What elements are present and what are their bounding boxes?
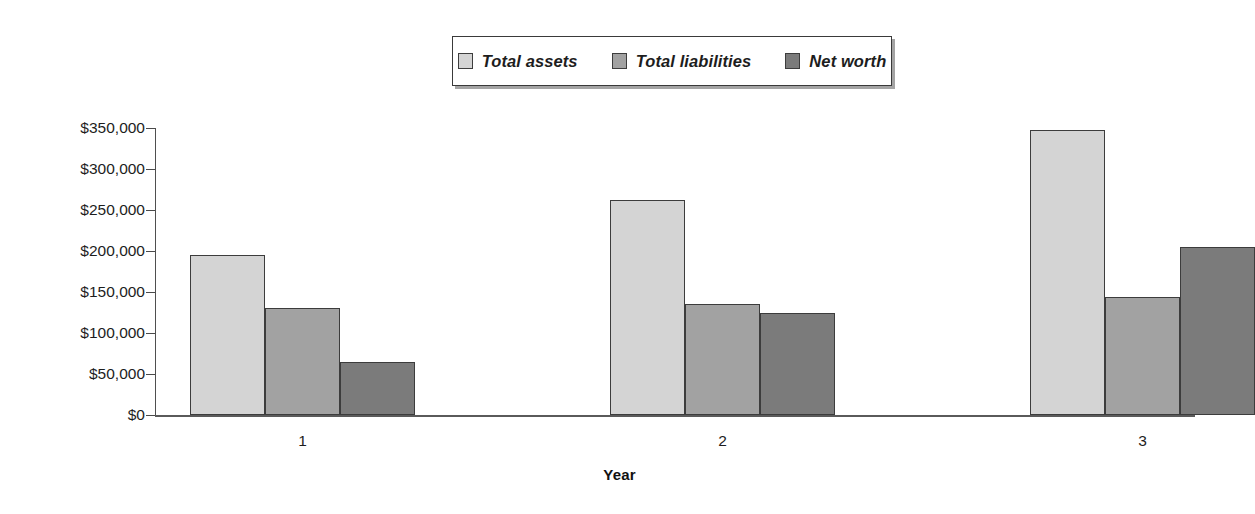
- x-axis-category-label: 3: [1138, 432, 1147, 450]
- y-axis-tick-mark: [146, 210, 155, 211]
- y-axis-tick-mark: [146, 251, 155, 252]
- bar: [1030, 130, 1105, 415]
- y-axis-tick-mark: [146, 374, 155, 375]
- y-axis-tick-label: $350,000: [80, 119, 145, 137]
- bar: [265, 308, 340, 415]
- y-axis-tick-label: $50,000: [89, 365, 145, 383]
- x-axis-title: Year: [0, 466, 1239, 483]
- y-axis-tick-mark: [146, 292, 155, 293]
- x-axis-category-label: 2: [718, 432, 727, 450]
- y-axis-tick-mark: [146, 415, 155, 416]
- y-axis-tick-mark: [146, 333, 155, 334]
- bar: [610, 200, 685, 415]
- bar: [685, 304, 760, 415]
- bar: [1180, 247, 1255, 415]
- x-axis-line: [155, 415, 1195, 417]
- bar: [340, 362, 415, 415]
- y-axis-tick-mark: [146, 128, 155, 129]
- y-axis-tick-label: $100,000: [80, 324, 145, 342]
- bar: [1105, 297, 1180, 415]
- y-axis-tick-label: $200,000: [80, 242, 145, 260]
- y-axis-tick-labels: $0$50,000$100,000$150,000$200,000$250,00…: [40, 0, 145, 514]
- y-axis-tick-label: $150,000: [80, 283, 145, 301]
- y-axis-tick-label: $300,000: [80, 160, 145, 178]
- y-axis-tick-mark: [146, 169, 155, 170]
- y-axis-tick-label: $250,000: [80, 201, 145, 219]
- x-axis-category-label: 1: [298, 432, 307, 450]
- y-axis-tick-label: $0: [128, 406, 145, 424]
- bar: [190, 255, 265, 415]
- y-axis-line: [155, 128, 156, 416]
- bar: [760, 313, 835, 416]
